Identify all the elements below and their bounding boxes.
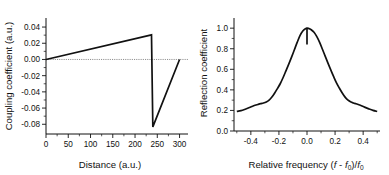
y-tick-label: -0.08 [21, 120, 40, 129]
y-axis-label: Reflection coefficient [198, 28, 209, 117]
x-tick-label: 50 [64, 140, 74, 149]
x-axis-ticks [46, 134, 180, 138]
y-tick-label: -0.04 [21, 88, 40, 97]
chart-panel-right: 0.00.20.40.60.81.0 -0.4-0.20.00.20.4 Rel… [194, 0, 389, 175]
reflection-coefficient-plot: 0.00.20.40.60.81.0 -0.4-0.20.00.20.4 Rel… [194, 0, 389, 175]
x-tick-label: 0.0 [301, 137, 313, 146]
y-tick-label: 0.4 [217, 86, 229, 95]
x-tick-label: 0.4 [357, 137, 369, 146]
x-axis-label: Relative frequency (f - f0)/f0 [248, 159, 363, 171]
y-axis-ticks [42, 27, 46, 124]
y-tick-label: 0.0 [217, 127, 229, 136]
x-tick-label: 150 [106, 140, 120, 149]
coupling-coefficient-series [46, 35, 180, 127]
coupling-coefficient-plot: 0.040.020.00-0.02-0.04-0.06-0.08 0501001… [0, 0, 195, 175]
x-tick-label: 200 [128, 140, 142, 149]
y-tick-label: -0.06 [21, 104, 40, 113]
y-tick-label: -0.02 [21, 72, 40, 81]
y-axis-tick-labels: 0.040.020.00-0.02-0.04-0.06-0.08 [21, 23, 40, 129]
y-tick-label: 0.2 [217, 106, 229, 115]
x-tick-label: 0 [44, 140, 49, 149]
y-tick-label: 0.6 [217, 65, 229, 74]
y-axis-label: Coupling coefficient (a.u.) [3, 22, 14, 131]
x-tick-label: 0.2 [329, 137, 341, 146]
x-tick-label: 250 [150, 140, 164, 149]
chart-panel-left: 0.040.020.00-0.02-0.04-0.06-0.08 0501001… [0, 0, 195, 175]
y-tick-label: 0.00 [24, 55, 40, 64]
y-tick-label: 1.0 [217, 24, 229, 33]
x-tick-label: 300 [173, 140, 187, 149]
x-axis-ticks [251, 131, 363, 135]
y-tick-label: 0.02 [24, 39, 40, 48]
x-axis-label: Distance (a.u.) [79, 159, 141, 170]
figure-container: 0.040.020.00-0.02-0.04-0.06-0.08 0501001… [0, 0, 389, 175]
y-tick-label: 0.04 [24, 23, 40, 32]
x-tick-label: -0.4 [244, 137, 259, 146]
y-axis-tick-labels: 0.00.20.40.60.81.0 [217, 24, 229, 136]
x-axis-tick-labels: -0.4-0.20.00.20.4 [244, 137, 369, 146]
x-tick-label: 100 [84, 140, 98, 149]
x-axis-tick-labels: 050100150200250300 [44, 140, 187, 149]
y-tick-label: 0.8 [217, 45, 229, 54]
x-tick-label: -0.2 [272, 137, 287, 146]
